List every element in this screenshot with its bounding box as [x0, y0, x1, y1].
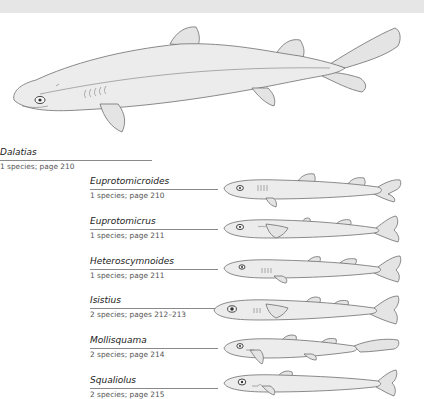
euprotomicroides-shark-illustration	[218, 172, 418, 208]
divider	[90, 269, 218, 270]
genus-entry-dalatias: Dalatias 1 species; page 210	[0, 147, 152, 172]
divider	[90, 189, 218, 190]
squaliolus-shark-illustration	[218, 368, 418, 399]
genus-name: Euprotomicroides	[90, 176, 218, 187]
mollisquama-shark-illustration	[218, 330, 418, 368]
genus-name: Mollisquama	[90, 335, 218, 346]
genus-name: Heteroscymnoides	[90, 256, 218, 267]
divider	[90, 308, 218, 309]
genus-entry-isistius: Isistius 2 species; pages 212–213	[90, 295, 218, 320]
genus-name: Dalatias	[0, 147, 152, 158]
genus-detail: 1 species; page 210	[0, 162, 152, 172]
genus-entry-euprotomicrus: Euprotomicrus 1 species; page 211	[90, 216, 218, 241]
genus-detail: 2 species; page 215	[90, 390, 218, 399]
divider	[90, 348, 218, 349]
genus-name: Isistius	[90, 295, 218, 306]
genus-detail: 1 species; page 210	[90, 191, 218, 201]
genus-detail: 2 species; page 214	[90, 350, 218, 360]
genus-detail: 2 species; pages 212–213	[90, 310, 218, 320]
genus-detail: 1 species; page 211	[90, 271, 218, 281]
isistius-shark-illustration	[210, 292, 420, 330]
genus-name: Squaliolus	[90, 375, 218, 386]
genus-name: Euprotomicrus	[90, 216, 218, 227]
genus-entry-heteroscymnoides: Heteroscymnoides 1 species; page 211	[90, 256, 218, 281]
divider	[0, 160, 152, 161]
genus-entry-mollisquama: Mollisquama 2 species; page 214	[90, 335, 218, 360]
divider	[90, 229, 218, 230]
euprotomicrus-shark-illustration	[218, 212, 418, 248]
divider	[90, 388, 218, 389]
genus-entry-euprotomicroides: Euprotomicroides 1 species; page 210	[90, 176, 218, 201]
genus-detail: 1 species; page 211	[90, 231, 218, 241]
genus-entry-squaliolus: Squaliolus 2 species; page 215	[90, 375, 218, 399]
heteroscymnoides-shark-illustration	[218, 252, 418, 288]
dalatias-shark-illustration	[0, 0, 424, 140]
